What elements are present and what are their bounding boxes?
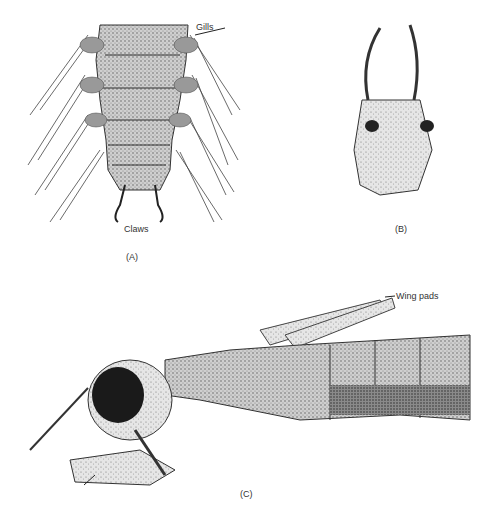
panel-c-nymph-illustration (30, 296, 470, 485)
panel-c-caption: (C) (240, 489, 253, 499)
panel-b-caption: (B) (395, 224, 407, 234)
claws-label: Claws (124, 224, 149, 234)
figure-drawing (0, 0, 477, 522)
wing-pads-label: Wing pads (396, 291, 439, 301)
panel-a-caption: (A) (126, 252, 138, 262)
panel-a-abdomen-illustration (28, 25, 240, 222)
panel-b-labium-illustration (354, 25, 434, 195)
gills-label: Gills (196, 22, 214, 32)
